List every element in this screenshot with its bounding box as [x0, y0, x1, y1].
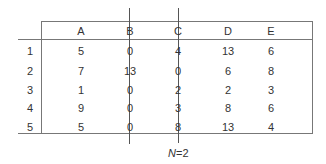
n-equals-label: N=2 [168, 147, 189, 159]
table-cell: 0 [115, 84, 145, 96]
header-bottom-border [18, 39, 313, 40]
header-top-border [41, 21, 313, 22]
table-cell: 2 [163, 84, 193, 96]
table-cell: 0 [115, 121, 145, 133]
n-value: =2 [176, 147, 189, 159]
row-label: 4 [20, 102, 40, 114]
table-cell: 0 [115, 45, 145, 57]
table-cell: 13 [115, 65, 145, 77]
table-cell: 0 [163, 65, 193, 77]
row-label: 2 [20, 65, 40, 77]
row-label: 1 [20, 45, 40, 57]
table-cell: 2 [213, 84, 243, 96]
table-cell: 8 [213, 102, 243, 114]
table-cell: 1 [66, 84, 96, 96]
table-cell: 4 [163, 45, 193, 57]
table-cell: 5 [66, 45, 96, 57]
column-header-b: B [115, 25, 145, 37]
table-cell: 13 [213, 45, 243, 57]
column-header-c: C [163, 25, 193, 37]
table-cell: 6 [213, 65, 243, 77]
table-bottom-border [18, 133, 313, 134]
table-cell: 9 [66, 102, 96, 114]
table-cell: 0 [115, 102, 145, 114]
table-cell: 6 [256, 45, 286, 57]
column-header-e: E [256, 25, 286, 37]
table-cell: 3 [256, 84, 286, 96]
table-cell: 8 [163, 121, 193, 133]
table-cell: 3 [163, 102, 193, 114]
row-label-divider [41, 21, 42, 134]
table-right-border [312, 21, 313, 134]
table-cell: 13 [213, 121, 243, 133]
table-cell: 6 [256, 102, 286, 114]
table-cell: 4 [256, 121, 286, 133]
column-header-a: A [66, 25, 96, 37]
table-cell: 8 [256, 65, 286, 77]
table-cell: 5 [66, 121, 96, 133]
table-cell: 7 [66, 65, 96, 77]
row-label: 3 [20, 84, 40, 96]
column-header-d: D [213, 25, 243, 37]
n-variable: N [168, 147, 176, 159]
row-label: 5 [20, 121, 40, 133]
